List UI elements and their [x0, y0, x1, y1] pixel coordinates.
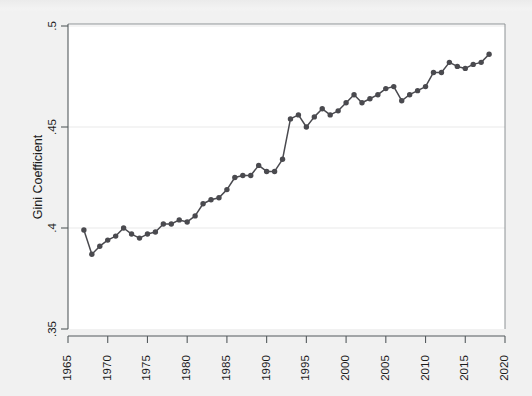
- data-point: [375, 92, 380, 97]
- data-point: [296, 112, 301, 117]
- data-point: [145, 231, 150, 236]
- data-point: [248, 173, 253, 178]
- x-tick-label: 1990: [260, 355, 272, 381]
- data-point: [280, 157, 285, 162]
- data-point: [192, 213, 197, 218]
- data-point: [351, 92, 356, 97]
- data-point: [105, 237, 110, 242]
- x-tick-label: 2010: [419, 355, 431, 381]
- data-point: [486, 52, 491, 57]
- data-point: [256, 163, 261, 168]
- data-point: [359, 100, 364, 105]
- data-point: [343, 100, 348, 105]
- data-point: [216, 195, 221, 200]
- data-point: [463, 66, 468, 71]
- data-point: [439, 70, 444, 75]
- y-axis-title: Gini Coefficient: [31, 134, 45, 219]
- data-point: [335, 108, 340, 113]
- data-point: [447, 60, 452, 65]
- data-point: [232, 175, 237, 180]
- gini-coefficient-chart: .35.4.45.5 19651970197519801985199019952…: [0, 0, 532, 396]
- data-point: [129, 231, 134, 236]
- data-point: [415, 88, 420, 93]
- data-point: [304, 124, 309, 129]
- data-point: [264, 169, 269, 174]
- data-point: [367, 96, 372, 101]
- data-point: [288, 116, 293, 121]
- y-tick-label: .35: [46, 321, 58, 337]
- x-tick-label: 2005: [379, 355, 391, 381]
- data-point: [478, 60, 483, 65]
- x-tick-label: 2000: [339, 355, 351, 381]
- data-point: [89, 252, 94, 257]
- data-point: [240, 173, 245, 178]
- data-point: [407, 92, 412, 97]
- data-point: [312, 114, 317, 119]
- y-tick-label: .4: [46, 223, 58, 233]
- data-point: [121, 225, 126, 230]
- x-tick-label: 1965: [61, 355, 73, 381]
- x-tick-label: 1980: [180, 355, 192, 381]
- x-axis-ticks: 1965197019751980198519901995200020052010…: [61, 336, 510, 381]
- x-tick-label: 1995: [299, 355, 311, 381]
- data-point: [177, 217, 182, 222]
- y-tick-label: .5: [46, 21, 58, 31]
- y-axis-ticks: .35.4.45.5: [46, 21, 68, 337]
- data-point: [471, 62, 476, 67]
- data-point: [391, 84, 396, 89]
- data-point: [161, 221, 166, 226]
- data-point: [455, 64, 460, 69]
- data-point: [208, 197, 213, 202]
- chart-svg: .35.4.45.5 19651970197519801985199019952…: [0, 0, 532, 396]
- data-point: [272, 169, 277, 174]
- data-point: [224, 187, 229, 192]
- data-point: [153, 229, 158, 234]
- data-point: [320, 106, 325, 111]
- data-point: [383, 86, 388, 91]
- data-point: [328, 112, 333, 117]
- plot-area-background: [68, 24, 505, 329]
- data-point: [399, 98, 404, 103]
- data-point: [184, 219, 189, 224]
- data-point: [169, 221, 174, 226]
- data-point: [423, 84, 428, 89]
- x-tick-label: 1985: [220, 355, 232, 381]
- x-tick-label: 2015: [458, 355, 470, 381]
- data-point: [431, 70, 436, 75]
- x-tick-label: 2020: [498, 355, 510, 381]
- y-tick-label: .45: [46, 119, 58, 135]
- data-point: [137, 235, 142, 240]
- data-point: [200, 201, 205, 206]
- x-tick-label: 1975: [140, 355, 152, 381]
- data-point: [97, 243, 102, 248]
- data-point: [81, 227, 86, 232]
- x-tick-label: 1970: [101, 355, 113, 381]
- data-point: [113, 233, 118, 238]
